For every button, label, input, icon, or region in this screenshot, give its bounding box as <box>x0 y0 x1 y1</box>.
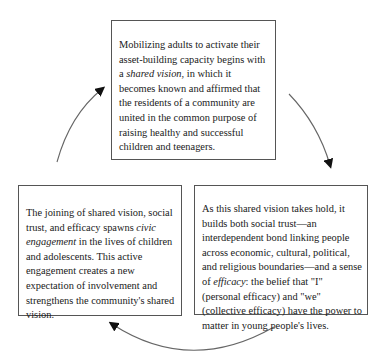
text-segment: As this shared vision takes hold, it bui… <box>202 203 362 287</box>
text-segment: in the lives of children and adolescents… <box>26 236 174 320</box>
text-segment: , in which it becomes known and affirmed… <box>119 68 260 152</box>
emphasis-shared-vision: shared vision <box>126 68 181 79</box>
civic-engagement-box: The joining of shared vision, social tru… <box>18 185 182 316</box>
social-trust-efficacy-box: As this shared vision takes hold, it bui… <box>194 185 368 315</box>
social-trust-efficacy-text: As this shared vision takes hold, it bui… <box>202 202 362 333</box>
arrow-left-to-top <box>57 89 102 162</box>
civic-engagement-text: The joining of shared vision, social tru… <box>26 206 176 323</box>
shared-vision-text: Mobilizing adults to activate their asse… <box>119 38 269 155</box>
arrow-top-to-right <box>289 94 330 165</box>
emphasis-efficacy: efficacy <box>213 276 245 287</box>
shared-vision-box: Mobilizing adults to activate their asse… <box>111 20 276 160</box>
